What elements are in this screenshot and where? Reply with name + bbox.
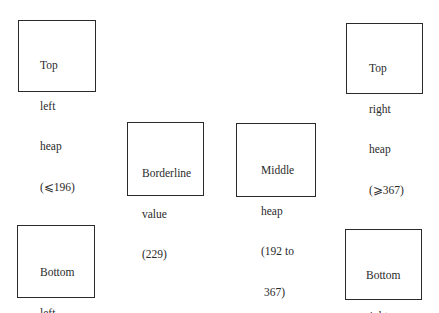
label-line: (192 to [261, 245, 294, 259]
top-left-heap-label: Top left heap (⩽196) [40, 32, 75, 208]
label-line: Middle [261, 164, 294, 178]
bottom-left-heap-label: Bottom left heap (⩽229) [40, 239, 75, 313]
label-line: Bottom [366, 269, 401, 283]
label-line: value [142, 208, 191, 222]
top-right-heap-label: Top right heap (⩾367) [369, 35, 404, 211]
label-line: heap [40, 140, 75, 154]
label-line: right [366, 310, 401, 313]
borderline-value-label: Borderline value (229) [142, 140, 191, 275]
middle-heap-label: Middle heap (192 to 367) [261, 137, 294, 313]
label-line: heap [261, 205, 294, 219]
label-line: (229) [142, 248, 191, 262]
label-line: Borderline [142, 167, 191, 181]
label-line: right [369, 103, 404, 117]
bottom-right-heap-label: Bottom right heap (⩾229) [366, 242, 401, 313]
label-line: (⩽196) [40, 181, 75, 195]
label-line: left [40, 100, 75, 114]
label-line: 367) [261, 286, 294, 300]
label-line: (⩾367) [369, 184, 404, 198]
label-line: left [40, 307, 75, 313]
label-line: Bottom [40, 266, 75, 280]
label-line: Top [40, 59, 75, 73]
label-line: Top [369, 62, 404, 76]
label-line: heap [369, 143, 404, 157]
